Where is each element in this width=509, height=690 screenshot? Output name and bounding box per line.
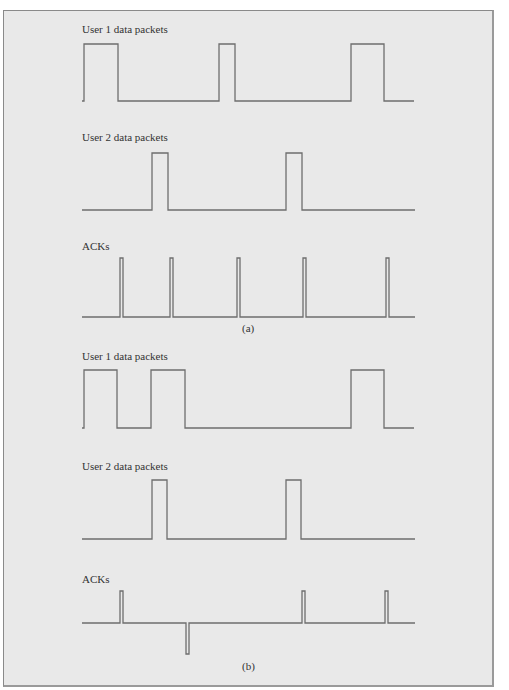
waveform-b-user1 xyxy=(82,370,414,428)
waveform-b-acks xyxy=(82,591,415,654)
waveform-a-user2 xyxy=(82,153,415,210)
waveform-diagram xyxy=(0,0,509,690)
waveform-b-user2 xyxy=(82,480,415,539)
waveform-a-user1 xyxy=(82,44,414,101)
waveform-a-acks xyxy=(82,258,415,317)
